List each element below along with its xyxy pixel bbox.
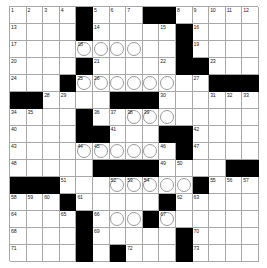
grid-cell[interactable] <box>193 92 210 109</box>
grid-cell[interactable] <box>27 160 44 177</box>
grid-cell[interactable] <box>43 109 60 126</box>
grid-cell[interactable] <box>76 177 93 194</box>
grid-cell[interactable] <box>126 194 143 211</box>
grid-cell[interactable]: 44 <box>76 143 93 160</box>
grid-cell[interactable] <box>27 126 44 143</box>
grid-cell[interactable] <box>226 41 243 58</box>
grid-cell[interactable]: 37 <box>110 109 127 126</box>
grid-cell[interactable]: 35 <box>27 109 44 126</box>
grid-cell[interactable]: 38 <box>126 109 143 126</box>
grid-cell[interactable]: 65 <box>60 211 77 228</box>
grid-cell[interactable] <box>93 245 110 262</box>
grid-cell[interactable]: 9 <box>193 7 210 24</box>
grid-cell[interactable]: 50 <box>176 160 193 177</box>
grid-cell[interactable] <box>242 109 259 126</box>
grid-cell[interactable]: 69 <box>93 228 110 245</box>
grid-cell[interactable] <box>242 126 259 143</box>
grid-cell[interactable] <box>43 245 60 262</box>
grid-cell[interactable] <box>143 41 160 58</box>
grid-cell[interactable] <box>209 109 226 126</box>
grid-cell[interactable] <box>60 24 77 41</box>
grid-cell[interactable] <box>43 24 60 41</box>
grid-cell[interactable] <box>159 41 176 58</box>
grid-cell[interactable]: 5 <box>93 7 110 24</box>
grid-cell[interactable]: 19 <box>193 41 210 58</box>
grid-cell[interactable]: 34 <box>10 109 27 126</box>
grid-cell[interactable]: 40 <box>10 126 27 143</box>
grid-cell[interactable] <box>226 126 243 143</box>
grid-cell[interactable] <box>110 41 127 58</box>
grid-cell[interactable]: 29 <box>60 92 77 109</box>
grid-cell[interactable] <box>176 75 193 92</box>
grid-cell[interactable] <box>242 228 259 245</box>
grid-cell[interactable] <box>27 211 44 228</box>
grid-cell[interactable] <box>43 126 60 143</box>
grid-cell[interactable]: 55 <box>209 177 226 194</box>
grid-cell[interactable] <box>226 228 243 245</box>
grid-cell[interactable] <box>126 41 143 58</box>
grid-cell[interactable] <box>242 245 259 262</box>
grid-cell[interactable] <box>60 245 77 262</box>
grid-cell[interactable] <box>43 228 60 245</box>
grid-cell[interactable] <box>126 24 143 41</box>
grid-cell[interactable]: 60 <box>43 194 60 211</box>
grid-cell[interactable] <box>76 160 93 177</box>
grid-cell[interactable]: 11 <box>226 7 243 24</box>
grid-cell[interactable] <box>176 109 193 126</box>
grid-cell[interactable]: 42 <box>193 126 210 143</box>
grid-cell[interactable]: 61 <box>76 194 93 211</box>
grid-cell[interactable] <box>143 245 160 262</box>
grid-cell[interactable] <box>27 41 44 58</box>
grid-cell[interactable] <box>27 24 44 41</box>
grid-cell[interactable]: 46 <box>159 143 176 160</box>
grid-cell[interactable]: 33 <box>242 92 259 109</box>
grid-cell[interactable] <box>43 211 60 228</box>
grid-cell[interactable] <box>60 109 77 126</box>
grid-cell[interactable]: 41 <box>110 126 127 143</box>
grid-cell[interactable]: 71 <box>10 245 27 262</box>
grid-cell[interactable]: 10 <box>209 7 226 24</box>
grid-cell[interactable]: 27 <box>193 75 210 92</box>
grid-cell[interactable] <box>209 211 226 228</box>
grid-cell[interactable]: 18 <box>76 41 93 58</box>
grid-cell[interactable] <box>110 194 127 211</box>
grid-cell[interactable] <box>126 58 143 75</box>
grid-cell[interactable]: 36 <box>93 109 110 126</box>
grid-cell[interactable] <box>143 228 160 245</box>
grid-cell[interactable] <box>226 245 243 262</box>
grid-cell[interactable]: 54 <box>143 177 160 194</box>
grid-cell[interactable] <box>209 245 226 262</box>
grid-cell[interactable]: 22 <box>159 58 176 75</box>
grid-cell[interactable] <box>226 143 243 160</box>
grid-cell[interactable] <box>126 211 143 228</box>
grid-cell[interactable]: 43 <box>10 143 27 160</box>
grid-cell[interactable]: 59 <box>27 194 44 211</box>
grid-cell[interactable] <box>110 143 127 160</box>
grid-cell[interactable]: 30 <box>159 92 176 109</box>
grid-cell[interactable] <box>110 24 127 41</box>
grid-cell[interactable] <box>209 41 226 58</box>
crossword-grid[interactable]: 1234567891011121314151617181920212223242… <box>9 6 258 261</box>
grid-cell[interactable] <box>27 75 44 92</box>
grid-cell[interactable] <box>60 143 77 160</box>
grid-cell[interactable]: 48 <box>10 160 27 177</box>
grid-cell[interactable]: 72 <box>126 245 143 262</box>
grid-cell[interactable]: 56 <box>226 177 243 194</box>
grid-cell[interactable] <box>143 58 160 75</box>
grid-cell[interactable] <box>242 211 259 228</box>
grid-cell[interactable] <box>93 177 110 194</box>
grid-cell[interactable]: 15 <box>159 24 176 41</box>
grid-cell[interactable] <box>209 228 226 245</box>
grid-cell[interactable]: 67 <box>159 211 176 228</box>
grid-cell[interactable] <box>43 143 60 160</box>
grid-cell[interactable] <box>126 228 143 245</box>
grid-cell[interactable] <box>143 143 160 160</box>
grid-cell[interactable]: 4 <box>60 7 77 24</box>
grid-cell[interactable]: 63 <box>193 194 210 211</box>
grid-cell[interactable] <box>159 245 176 262</box>
grid-cell[interactable] <box>159 109 176 126</box>
grid-cell[interactable] <box>60 41 77 58</box>
grid-cell[interactable]: 17 <box>10 41 27 58</box>
grid-cell[interactable] <box>209 24 226 41</box>
grid-cell[interactable]: 51 <box>60 177 77 194</box>
